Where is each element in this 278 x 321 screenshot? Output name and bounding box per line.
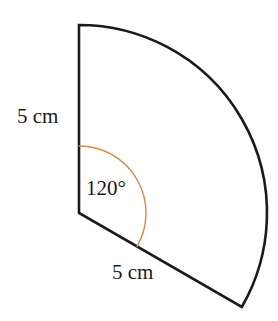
figure-canvas: 5 cm 5 cm 120° bbox=[0, 0, 278, 321]
label-central-angle: 120° bbox=[86, 178, 126, 199]
label-lower-radius: 5 cm bbox=[112, 262, 153, 283]
label-vertical-radius: 5 cm bbox=[17, 106, 58, 127]
sector-outline-path bbox=[79, 25, 267, 307]
